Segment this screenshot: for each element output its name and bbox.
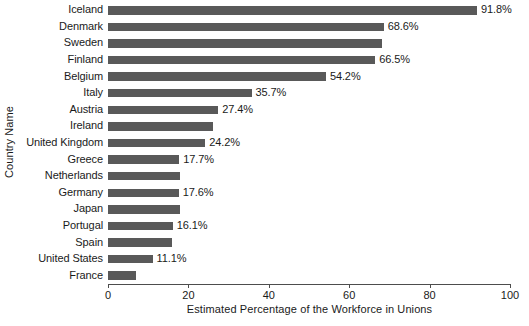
- bar: [108, 56, 375, 65]
- x-axis-tick-label: 0: [105, 289, 111, 301]
- y-axis-tick-label: Denmark: [18, 21, 103, 32]
- y-axis-tick-label: Iceland: [18, 4, 103, 15]
- x-axis-tick-mark: [510, 285, 511, 288]
- y-axis-tick-label: Sweden: [18, 37, 103, 48]
- bar: [108, 6, 477, 15]
- x-axis-tick-mark: [269, 285, 270, 288]
- y-axis-tick-label: Austria: [18, 104, 103, 115]
- bar-value-label: 27.4%: [222, 104, 253, 115]
- y-axis-tick-label: Ireland: [18, 120, 103, 131]
- y-axis-tick-label: Italy: [18, 87, 103, 98]
- bar: [108, 238, 172, 247]
- bar: [108, 72, 326, 81]
- y-axis-tick-label: United States: [18, 253, 103, 264]
- y-axis-tick-label: Netherlands: [18, 170, 103, 181]
- x-axis-tick-label: 100: [501, 289, 519, 301]
- bar: [108, 89, 252, 98]
- y-axis-tick-label: Portugal: [18, 220, 103, 231]
- bar-value-label: 54.2%: [330, 71, 361, 82]
- y-axis-category-labels: IcelandDenmarkSwedenFinlandBelgiumItalyA…: [18, 2, 103, 284]
- bar: [108, 189, 179, 198]
- x-axis-tick-label: 20: [182, 289, 194, 301]
- x-axis-tick-label: 60: [343, 289, 355, 301]
- bar-value-label: 24.2%: [209, 137, 240, 148]
- bar: [108, 23, 384, 32]
- bar-value-label: 17.7%: [183, 154, 214, 165]
- x-axis-tick-mark: [430, 285, 431, 288]
- x-axis-tick-label: 40: [263, 289, 275, 301]
- bar-value-label: 17.6%: [183, 187, 214, 198]
- bar: [108, 255, 153, 264]
- bar-value-label: 91.8%: [481, 4, 512, 15]
- x-axis-tick-mark: [108, 285, 109, 288]
- y-axis-tick-label: Germany: [18, 187, 103, 198]
- x-axis-tick-mark: [349, 285, 350, 288]
- bar-value-label: 68.6%: [388, 21, 419, 32]
- y-axis-title: Country Name: [2, 0, 16, 284]
- bar: [108, 172, 180, 181]
- bar: [108, 155, 179, 164]
- x-axis-ticks: 020406080100: [108, 285, 511, 301]
- y-axis-tick-label: Spain: [18, 237, 103, 248]
- x-axis-title: Estimated Percentage of the Workforce in…: [108, 303, 511, 316]
- bar-value-label: 66.5%: [379, 54, 410, 65]
- bar: [108, 139, 205, 148]
- bar: [108, 122, 213, 131]
- bar: [108, 205, 180, 214]
- x-axis-tick-label: 80: [423, 289, 435, 301]
- bar-value-label: 35.7%: [256, 87, 287, 98]
- x-axis-tick-mark: [188, 285, 189, 288]
- bar-chart: Country Name IcelandDenmarkSwedenFinland…: [0, 0, 529, 326]
- y-axis-tick-label: United Kingdom: [18, 137, 103, 148]
- bar: [108, 271, 136, 280]
- bar-value-label: 11.1%: [157, 253, 187, 264]
- bar: [108, 39, 382, 48]
- plot-area: 91.8%68.6%66.5%54.2%35.7%27.4%24.2%17.7%…: [108, 2, 510, 284]
- y-axis-tick-label: Belgium: [18, 71, 103, 82]
- y-axis-tick-label: Greece: [18, 154, 103, 165]
- y-axis-tick-label: France: [18, 270, 103, 281]
- y-axis-tick-label: Japan: [18, 203, 103, 214]
- bar-value-label: 16.1%: [177, 220, 208, 231]
- bar: [108, 106, 218, 115]
- y-axis-tick-label: Finland: [18, 54, 103, 65]
- bar: [108, 222, 173, 231]
